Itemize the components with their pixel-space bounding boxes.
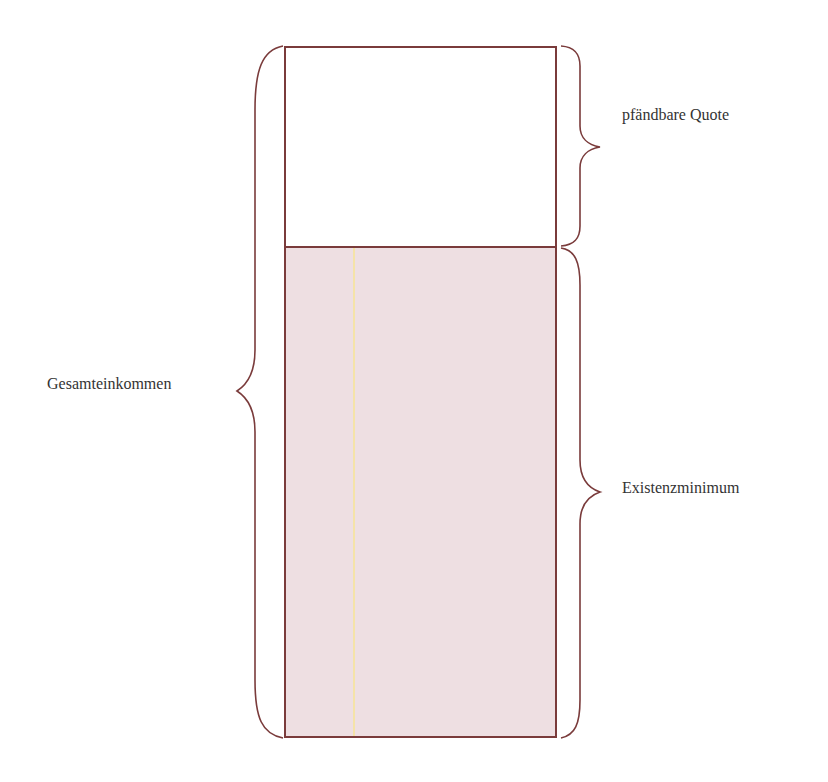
label-total-income: Gesamteinkommen (47, 375, 171, 393)
label-seizable-portion: pfändbare Quote (622, 106, 729, 124)
right-brace-bottom-icon (561, 248, 600, 738)
label-subsistence-minimum: Existenzminimum (622, 479, 739, 497)
right-brace-top-icon (561, 46, 600, 246)
left-brace-icon (237, 46, 283, 738)
